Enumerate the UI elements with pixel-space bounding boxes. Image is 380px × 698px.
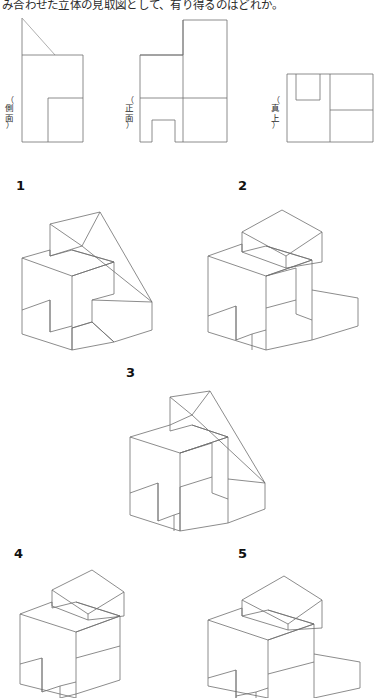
- o3-pillar-top: [180, 443, 212, 453]
- o4-right-face: [76, 616, 120, 694]
- o2-pillar-mid: [266, 300, 296, 308]
- o3-top-edge: [192, 425, 228, 437]
- o1-wedge-outline: [50, 212, 152, 302]
- page-root: み合わせた立体の見取図として、有り得るのはどれか。 （ 側 面 ）: [0, 0, 380, 698]
- o3-front-notch: [130, 483, 174, 531]
- view-front-figure: [134, 14, 234, 154]
- o2-pillar-top: [266, 268, 296, 276]
- option-figure-3[interactable]: [100, 375, 290, 535]
- o5-front-notch: [208, 670, 236, 698]
- o5-left-face: [208, 620, 268, 698]
- top-inset-rect: [296, 74, 320, 100]
- option-5-svg[interactable]: [200, 558, 380, 698]
- option-figure-2[interactable]: [200, 190, 380, 350]
- view-top-svg: [281, 14, 379, 154]
- view-front-svg: [134, 14, 234, 154]
- o4-notch-top: [60, 682, 76, 686]
- front-outline: [140, 20, 227, 142]
- side-diagonal: [22, 18, 55, 55]
- o3-wedge-inner: [170, 397, 265, 483]
- option-figure-5[interactable]: [200, 558, 380, 698]
- o5-top-face: [208, 608, 314, 640]
- o1-bottom-edge: [72, 342, 114, 350]
- o1-top-edge: [72, 250, 114, 262]
- o1-right-block-top: [72, 322, 92, 328]
- orthographic-views: （ 側 面 ） （ 正 面 ）: [0, 14, 380, 154]
- o3-wedge-base: [170, 415, 192, 425]
- o1-wedge-edge: [82, 212, 100, 246]
- option-4-svg[interactable]: [10, 558, 190, 698]
- o2-small-edge: [252, 330, 266, 334]
- option-figure-1[interactable]: [10, 190, 190, 350]
- o5-slant-plate: [242, 576, 322, 624]
- option-3-svg[interactable]: [100, 375, 290, 535]
- o1-right-block: [92, 300, 152, 342]
- side-main-rect: [22, 55, 83, 142]
- o1-wedge-inner: [50, 224, 152, 302]
- o3-top-face: [130, 425, 228, 453]
- o1-top-face: [22, 250, 114, 276]
- o1-right-block-edge: [92, 322, 114, 342]
- o4-left-face: [20, 614, 76, 698]
- o3-bottom-edge: [180, 523, 228, 531]
- o3-small-edge: [174, 513, 180, 515]
- view-top-figure: [281, 14, 379, 154]
- o4-slant-plate: [52, 570, 124, 614]
- o2-right-block: [312, 290, 358, 340]
- o5-right-mid: [268, 662, 314, 674]
- o3-pillar-mid: [180, 477, 212, 487]
- o4-slant-side: [52, 590, 88, 620]
- o4-top-face: [20, 602, 120, 632]
- o1-left-face: [22, 258, 72, 350]
- o1-front-notch: [22, 300, 72, 332]
- o4-front-notch: [20, 658, 60, 698]
- o2-inner-pillar: [296, 268, 312, 320]
- o2-top-edge: [266, 246, 312, 260]
- o2-left-face: [208, 256, 266, 350]
- view-side-figure: [14, 14, 94, 154]
- o2-bottom-edge: [266, 340, 312, 350]
- o4-top-edge: [76, 602, 120, 616]
- view-side-svg: [14, 14, 94, 154]
- o5-slant-side: [242, 600, 288, 630]
- option-figure-4[interactable]: [10, 558, 190, 698]
- o3-right-block: [228, 479, 265, 523]
- option-1-svg[interactable]: [10, 190, 190, 350]
- o5-slant-right: [288, 600, 322, 630]
- question-prompt: み合わせた立体の見取図として、有り得るのはどれか。: [2, 0, 284, 12]
- o4-right-mid: [76, 646, 120, 658]
- option-2-svg[interactable]: [200, 190, 380, 350]
- o5-right-block: [314, 654, 360, 698]
- o3-wedge-edge: [192, 391, 210, 415]
